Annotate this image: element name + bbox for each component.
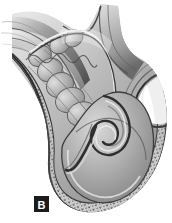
panel-label-b: B [34,196,49,212]
figure-panel-b: B [0,0,172,223]
anatomical-illustration [0,0,172,223]
